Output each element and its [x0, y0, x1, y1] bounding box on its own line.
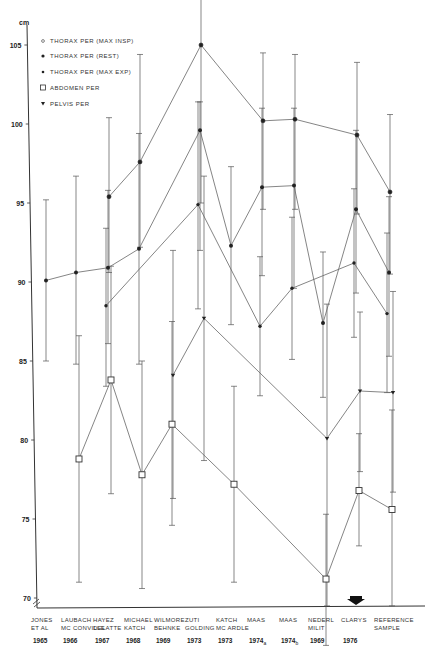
error-bars: [43, 0, 396, 645]
legend-item-label: THORAX PER (MAX EXP): [50, 69, 131, 75]
category-label-line1: WILMORE: [154, 617, 185, 623]
category-label-line1: MAAS: [279, 617, 297, 623]
square-marker-icon: [108, 377, 114, 383]
square-marker-icon: [139, 472, 145, 478]
dot-marker-icon: [74, 271, 78, 275]
circle-marker-icon: [293, 117, 297, 121]
category-year: 1973: [218, 637, 233, 644]
category-label-line1: JONES: [31, 617, 53, 623]
dot-marker-icon: [196, 203, 199, 206]
category-label-line2: MILIT: [308, 625, 325, 631]
series-line: [109, 45, 390, 197]
category-label-line2: KATCH: [124, 625, 145, 631]
y-axis-unit: cm: [19, 19, 29, 26]
legend-item-label: THORAX PER (REST): [50, 53, 119, 59]
x-axis-line: [37, 606, 425, 608]
category-label-line1: ZUTI: [185, 617, 200, 623]
category-label-line2: BEHNKE: [154, 625, 180, 631]
dot-marker-icon: [137, 247, 141, 251]
series-lines: [46, 45, 393, 579]
circle-marker-icon: [107, 195, 111, 199]
dot-marker-icon: [387, 271, 391, 275]
circle-marker-icon: [355, 133, 359, 137]
triangle-marker-icon: [171, 374, 175, 378]
y-tick-label: 100: [11, 121, 23, 128]
square-marker-icon: [169, 421, 175, 427]
axes: cm707580859095100105: [10, 19, 425, 608]
series-line: [46, 130, 389, 323]
category-year: 1974b: [281, 637, 298, 646]
y-tick-label: 80: [20, 437, 28, 444]
circle-marker-icon: [138, 160, 142, 164]
category-label-line1: REFERENCE: [374, 617, 414, 623]
category-label-line1: CLARYS: [341, 617, 367, 623]
category-year: 1966: [63, 637, 78, 644]
circle-marker-icon: [388, 190, 392, 194]
category-label-line1: HAYEZ: [93, 617, 114, 623]
legend-item-label: PELVIS PER: [50, 101, 90, 107]
circle-marker-icon: [42, 40, 45, 43]
square-marker-icon: [389, 507, 395, 513]
dot-marker-icon: [292, 184, 296, 188]
square-marker-icon: [356, 488, 362, 494]
dot-marker-icon: [229, 244, 233, 248]
dot-marker-icon: [260, 185, 264, 189]
square-marker-icon: [41, 85, 46, 90]
category-label-line1: NEDERL: [308, 617, 335, 623]
dot-marker-icon: [106, 266, 110, 270]
y-tick-label: 95: [16, 200, 24, 207]
category-year: 1967: [95, 637, 110, 644]
category-label-line1: MICHAEL: [124, 617, 153, 623]
y-tick-label: 90: [18, 279, 26, 286]
legend-item-label: THORAX PER (MAX INSP): [50, 38, 134, 44]
circle-marker-icon: [199, 43, 203, 47]
category-year: 1973: [187, 637, 202, 644]
dot-marker-icon: [290, 287, 293, 290]
y-tick-label: 85: [19, 358, 27, 365]
circle-marker-icon: [261, 119, 265, 123]
category-label-line1: LAUBACH: [61, 617, 91, 623]
legend-item-label: ABDOMEN PER: [50, 85, 100, 91]
dot-marker-icon: [42, 71, 45, 74]
category-year: 1969: [156, 637, 171, 644]
category-year: 1976: [343, 637, 358, 644]
dot-marker-icon: [44, 278, 48, 282]
category-year: 1968: [126, 637, 141, 644]
triangle-marker-icon: [41, 102, 45, 106]
dot-marker-icon: [198, 128, 202, 132]
category-label-line1: KATCH: [216, 617, 237, 623]
category-label-line1: MAAS: [247, 617, 265, 623]
arrow-down-icon: [347, 596, 365, 605]
category-year: 1969: [310, 637, 325, 644]
dot-marker-icon: [354, 207, 358, 211]
triangle-marker-icon: [325, 437, 329, 441]
dot-marker-icon: [352, 261, 355, 264]
series-markers: [44, 43, 395, 582]
series-line: [79, 380, 392, 579]
category-year: 1965: [33, 637, 48, 644]
dot-marker-icon: [385, 312, 388, 315]
series-line: [106, 205, 387, 327]
square-marker-icon: [323, 576, 329, 582]
category-year: 1974a: [249, 637, 266, 646]
square-marker-icon: [231, 481, 237, 487]
dot-marker-icon: [104, 304, 107, 307]
dot-marker-icon: [321, 321, 325, 325]
legend: THORAX PER (MAX INSP)THORAX PER (REST)TH…: [41, 38, 134, 107]
category-label-line2: GOLDING: [185, 625, 215, 631]
category-label-line2: ET AL: [31, 625, 49, 631]
dot-marker-icon: [41, 54, 44, 57]
y-tick-label: 70: [23, 595, 31, 602]
category-label-line2: MC ARDLE: [216, 625, 249, 631]
chart-canvas: cm707580859095100105 THORAX PER (MAX INS…: [0, 0, 439, 652]
category-label-line2: DELATTE: [93, 625, 122, 631]
y-tick-label: 105: [10, 42, 22, 49]
y-tick-label: 75: [22, 516, 30, 523]
x-axis-labels: JONESET AL1965LAUBACHMC CONVILLE1966HAYE…: [31, 596, 414, 646]
square-marker-icon: [76, 456, 82, 462]
dot-marker-icon: [258, 325, 261, 328]
category-label-line2: SAMPLE: [374, 625, 400, 631]
